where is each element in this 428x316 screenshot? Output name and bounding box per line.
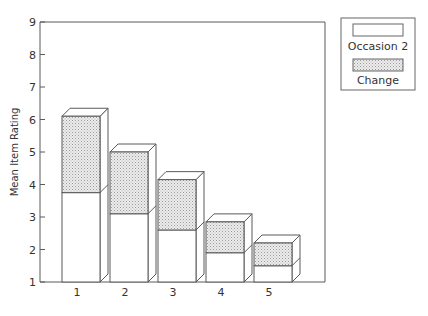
bar-segment-occasion-2 bbox=[206, 253, 244, 282]
legend-swatch-change bbox=[353, 59, 403, 71]
bar-segment-occasion-2 bbox=[158, 230, 196, 282]
y-tick-label: 1 bbox=[29, 276, 36, 289]
bar-side-face bbox=[244, 214, 252, 282]
bar-top-face bbox=[254, 235, 300, 243]
bar-segment-change bbox=[254, 243, 292, 266]
bar-chart: 123456789 12345 Mean Item Rating Occasio… bbox=[0, 0, 428, 316]
bar-segment-change bbox=[62, 116, 100, 192]
bar-5 bbox=[254, 235, 300, 282]
bar-top-face bbox=[110, 144, 156, 152]
bar-segment-occasion-2 bbox=[254, 266, 292, 282]
bars bbox=[62, 108, 300, 282]
legend-label-occasion-2: Occasion 2 bbox=[348, 40, 408, 53]
y-tick-label: 3 bbox=[29, 211, 36, 224]
x-tick-label: 2 bbox=[122, 286, 129, 299]
legend-label-change: Change bbox=[357, 74, 399, 87]
bar-segment-change bbox=[206, 222, 244, 253]
bar-side-face bbox=[100, 108, 108, 282]
x-tick-label: 4 bbox=[218, 286, 225, 299]
bar-1 bbox=[62, 108, 108, 282]
y-tick-label: 8 bbox=[29, 49, 36, 62]
y-axis-title: Mean Item Rating bbox=[9, 108, 20, 197]
bar-top-face bbox=[62, 108, 108, 116]
y-tick-label: 9 bbox=[29, 16, 36, 29]
bar-segment-occasion-2 bbox=[110, 214, 148, 282]
y-tick-label: 5 bbox=[29, 146, 36, 159]
bar-top-face bbox=[158, 172, 204, 180]
x-tick-label: 1 bbox=[74, 286, 81, 299]
bar-top-face bbox=[206, 214, 252, 222]
y-tick-label: 6 bbox=[29, 114, 36, 127]
y-tick-label: 4 bbox=[29, 179, 36, 192]
y-tick-label: 2 bbox=[29, 244, 36, 257]
x-tick-label: 5 bbox=[266, 286, 273, 299]
legend-swatch-occasion-2 bbox=[353, 24, 403, 36]
bar-4 bbox=[206, 214, 252, 282]
bar-side-face bbox=[196, 172, 204, 282]
bar-segment-change bbox=[110, 152, 148, 214]
bar-segment-change bbox=[158, 180, 196, 230]
x-tick-label: 3 bbox=[170, 286, 177, 299]
legend: Occasion 2 Change bbox=[341, 18, 415, 90]
bar-2 bbox=[110, 144, 156, 282]
x-axis: 12345 bbox=[74, 286, 273, 299]
y-tick-label: 7 bbox=[29, 81, 36, 94]
bar-3 bbox=[158, 172, 204, 282]
bar-segment-occasion-2 bbox=[62, 193, 100, 282]
y-axis: 123456789 bbox=[29, 16, 45, 289]
